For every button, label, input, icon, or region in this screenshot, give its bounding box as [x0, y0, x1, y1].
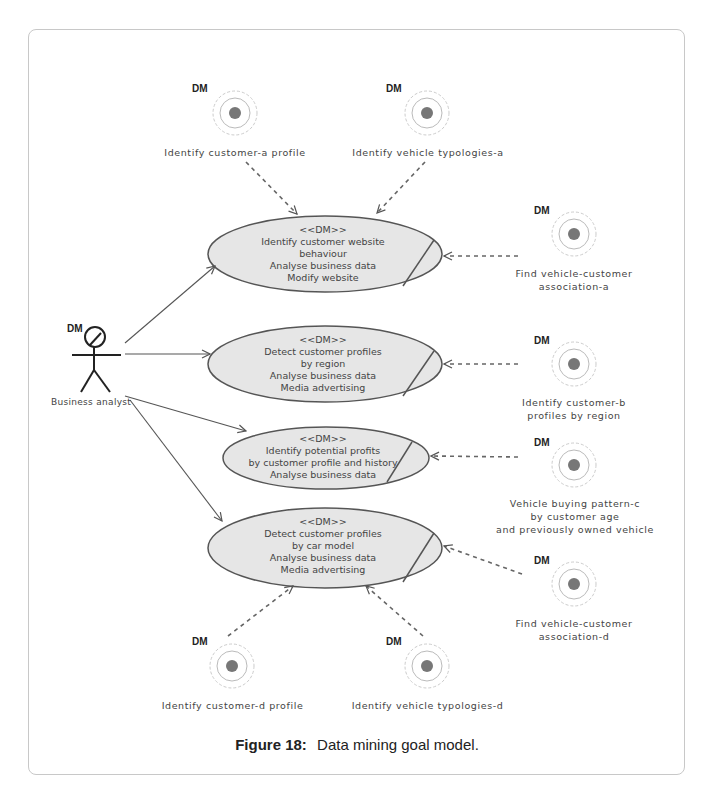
use-case-2-text: <<DM>> Detect customer profiles by regio…	[264, 334, 381, 394]
figure-caption-text: Data mining goal model.	[317, 736, 479, 753]
figure-caption-label: Figure 18:	[235, 736, 307, 753]
figure-caption: Figure 18: Data mining goal model.	[0, 736, 714, 753]
goal-8-label[interactable]: Identify vehicle typologies-d	[345, 699, 510, 712]
actor-associations	[125, 266, 246, 521]
goal-2-tag: DM	[386, 83, 402, 94]
goal-1-label[interactable]: Identify customer-a profile	[160, 146, 310, 159]
actor-stick-figure[interactable]	[72, 327, 121, 392]
actor-name: Business analyst	[51, 397, 131, 407]
goal-4-label[interactable]: Identify customer-b profiles by region	[499, 396, 649, 422]
use-case-3-text: <<DM>> Identify potential profits by cus…	[248, 433, 397, 481]
goal-8-tag: DM	[386, 636, 402, 647]
goal-4-tag: DM	[534, 335, 550, 346]
goal-5-label[interactable]: Vehicle buying pattern-c by customer age…	[490, 497, 660, 536]
use-case-4-text: <<DM>> Detect customer profiles by car m…	[264, 516, 381, 576]
goal-6-tag: DM	[534, 555, 550, 566]
actor-stereotype-tag: DM	[67, 323, 83, 334]
goal-2-label[interactable]: Identify vehicle typologies-a	[348, 146, 508, 159]
goal-6-label[interactable]: Find vehicle-customer association-d	[499, 617, 649, 643]
goal-7-label[interactable]: Identify customer-d profile	[155, 699, 310, 712]
goal-7-tag: DM	[192, 636, 208, 647]
goal-1-tag: DM	[192, 83, 208, 94]
goal-3-tag: DM	[534, 205, 550, 216]
use-case-1-text: <<DM>> Identify customer website behavio…	[261, 224, 384, 284]
goal-3-label[interactable]: Find vehicle-customer association-a	[499, 267, 649, 293]
goal-5-tag: DM	[534, 437, 550, 448]
